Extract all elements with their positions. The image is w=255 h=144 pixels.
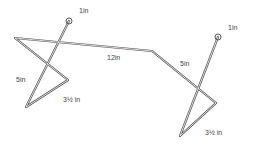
label-left-base: 3½ in [63,96,80,103]
label-right-leg: 5in [180,60,189,67]
bent-wire-diagram: 1in 1in 12in 5in 3½ in 5in 3½ in [0,0,255,144]
label-left-loop: 1in [79,7,88,14]
label-crossbar: 12in [107,54,120,61]
label-right-loop: 1in [228,24,237,31]
label-right-base: 3½ in [205,129,222,136]
wire-shape [15,18,221,136]
label-left-leg: 5in [16,76,25,83]
